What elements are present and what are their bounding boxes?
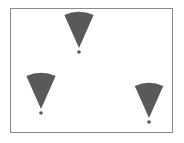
wedge-group (26, 12, 163, 124)
wedge-dot-icon (77, 50, 81, 54)
wedge-sector-shape (26, 73, 55, 109)
wedge-dot-icon (39, 111, 43, 115)
wedge-right (135, 83, 163, 124)
wedge-top (64, 12, 93, 54)
wedge-sector-shape (135, 83, 163, 118)
wedge-dot-icon (147, 120, 151, 124)
wedge-left (26, 73, 55, 115)
wedge-sector-shape (64, 12, 93, 48)
diagram-canvas (0, 0, 184, 143)
